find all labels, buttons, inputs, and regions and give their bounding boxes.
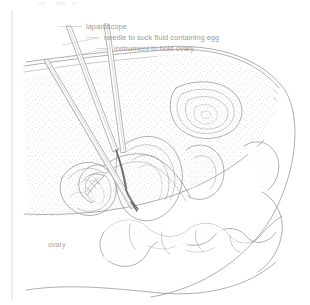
peritoneal-folds-right — [244, 142, 282, 272]
label-needle: needle to suck fluid containing egg — [104, 33, 219, 42]
label-ovary: ovary — [48, 240, 66, 249]
label-instrument: instrument to hold ovary — [114, 44, 194, 53]
laparoscopy-figure: . — [0, 0, 310, 305]
svg-text:.: . — [34, 0, 36, 9]
cut-off-heading-remnant: . — [34, 0, 78, 9]
bowel-loops — [100, 216, 282, 266]
label-laparoscope: laparoscope — [86, 22, 127, 31]
leader-needle — [62, 38, 100, 46]
illustration-canvas: . — [0, 0, 310, 305]
